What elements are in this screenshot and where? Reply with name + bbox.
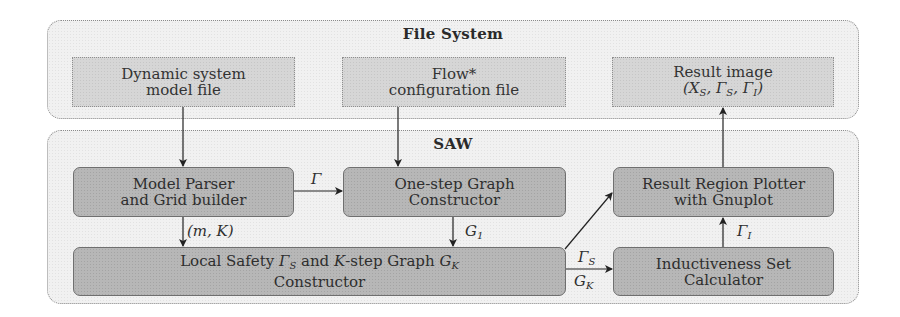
saw-title: SAW xyxy=(48,135,858,153)
label-gamma-s: ΓS xyxy=(578,248,595,267)
one-step-graph-box: One-step Graph Constructor xyxy=(343,167,566,217)
result-image-line1: Result image xyxy=(673,64,773,80)
local-safety-line1: Local Safety ΓS and K-step Graph GK xyxy=(180,253,459,274)
result-image-line2: (XS, ΓS, ΓI) xyxy=(683,80,763,101)
plotter-line2: with Gnuplot xyxy=(674,192,773,208)
inductiveness-line2: Calculator xyxy=(684,272,763,288)
one-step-line1: One-step Graph xyxy=(394,176,514,192)
model-parser-box: Model Parser and Grid builder xyxy=(73,167,294,217)
flow-config-line1: Flow* xyxy=(432,66,477,82)
label-gamma-i: ΓI xyxy=(737,222,751,241)
local-safety-box: Local Safety ΓS and K-step Graph GK Cons… xyxy=(73,247,566,296)
flow-config-line2: configuration file xyxy=(389,82,519,98)
plotter-line1: Result Region Plotter xyxy=(642,176,805,192)
inductiveness-box: Inductiveness Set Calculator xyxy=(613,247,834,296)
label-gamma: Γ xyxy=(311,170,321,188)
flow-config-box: Flow* configuration file xyxy=(342,57,566,107)
model-parser-line2: and Grid builder xyxy=(121,192,247,208)
local-safety-line2: Constructor xyxy=(274,274,365,290)
label-g1: G1 xyxy=(465,222,483,241)
label-g-k: GK xyxy=(574,272,593,291)
label-m-k: (m, K) xyxy=(187,222,234,240)
model-file-line1: Dynamic system xyxy=(121,66,245,82)
model-file-box: Dynamic system model file xyxy=(72,57,295,107)
result-image-box: Result image (XS, ΓS, ΓI) xyxy=(612,57,834,107)
result-plotter-box: Result Region Plotter with Gnuplot xyxy=(613,167,834,217)
file-system-title: File System xyxy=(48,25,858,43)
model-file-line2: model file xyxy=(146,82,221,98)
inductiveness-line1: Inductiveness Set xyxy=(656,256,791,272)
one-step-line2: Constructor xyxy=(409,192,500,208)
model-parser-line1: Model Parser xyxy=(133,176,235,192)
